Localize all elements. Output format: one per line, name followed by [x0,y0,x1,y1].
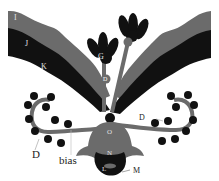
bud-right [116,13,151,47]
label-D-right: D [139,114,145,122]
label-I: I [14,14,17,22]
label-D-stem: D [103,76,107,82]
label-O: O [107,129,112,136]
label-N: N [107,150,112,157]
label-bias: bias [59,155,77,166]
label-L: L [102,166,106,173]
label-G: G [98,53,104,61]
label-K: K [41,63,47,71]
label-D-left: D [32,149,40,160]
label-J: J [25,40,28,48]
label-M: M [133,167,140,175]
left-band-group [8,11,110,112]
